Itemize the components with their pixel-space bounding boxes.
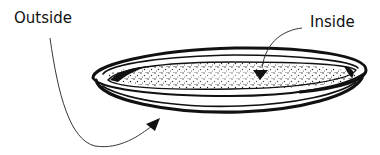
dish-illustration: [0, 0, 380, 155]
diagram-canvas: Outside Inside: [0, 0, 380, 155]
dish: [93, 48, 366, 112]
